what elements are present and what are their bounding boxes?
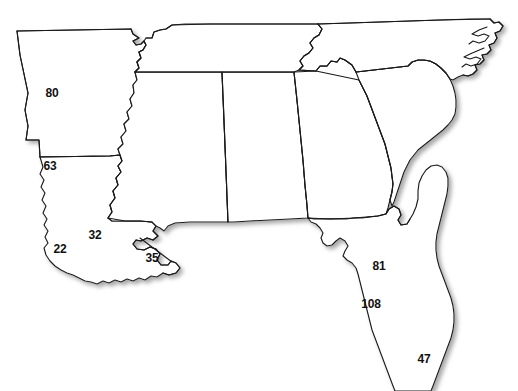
state-tennessee [135,24,322,72]
region-label-north-louisiana: 63 [44,159,57,173]
region-label-mississippi-delta: 35 [146,251,159,265]
landmass-shadow-group [17,19,503,391]
state-alabama [222,72,308,222]
region-label-southwest-louisiana: 22 [54,242,67,256]
region-label-arkansas: 80 [46,86,59,100]
map-graphic [0,0,518,391]
region-label-central-florida: 108 [361,297,380,311]
region-label-central-louisiana: 32 [89,228,102,242]
region-label-north-florida: 81 [373,259,386,273]
map-container: 80 63 32 22 35 81 108 47 [0,0,518,391]
region-label-south-florida: 47 [418,352,431,366]
